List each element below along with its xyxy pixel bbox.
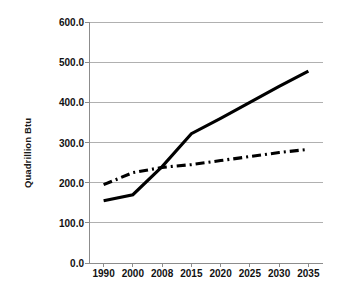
line-chart: Quadrillion Btu 0.0100.0200.0300.0400.05…	[0, 0, 340, 306]
x-tick-label: 2030	[268, 268, 290, 279]
x-axis-tick-labels: 19902000200820152020202520302035	[0, 0, 340, 306]
x-tick-label: 2035	[297, 268, 319, 279]
x-tick-label: 2025	[239, 268, 261, 279]
x-tick-label: 1990	[93, 268, 115, 279]
x-tick-label: 2008	[151, 268, 173, 279]
x-tick-label: 2000	[122, 268, 144, 279]
x-tick-label: 2015	[180, 268, 202, 279]
x-tick-label: 2020	[210, 268, 232, 279]
